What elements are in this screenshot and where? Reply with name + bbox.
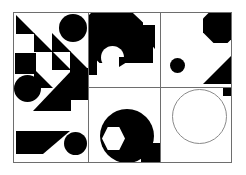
square-shape: [223, 88, 231, 96]
square-shape: [89, 51, 97, 75]
square-shape: [16, 131, 43, 154]
square-shape: [70, 68, 88, 100]
triangle-shape: [16, 15, 35, 34]
circle-shape: [170, 58, 185, 73]
circle-shape: [64, 132, 87, 155]
circle-shape: [14, 75, 41, 102]
panel-bottom-right: [161, 88, 231, 162]
divider-horizontal: [88, 87, 231, 88]
circle-outline-shape: [172, 89, 227, 144]
artwork-stage: [0, 0, 246, 175]
square-shape: [15, 53, 36, 74]
octagon-shape: [203, 13, 231, 43]
triangle-shape: [34, 33, 53, 52]
circle-shape: [59, 14, 87, 42]
panel-top-middle: [89, 13, 160, 87]
panel-top-right: [161, 13, 231, 87]
triangle-shape: [52, 51, 71, 70]
panel-top-left: [14, 13, 88, 162]
panel-bottom-middle: [89, 88, 160, 162]
triangle-shape: [203, 50, 231, 84]
artwork-canvas: [13, 12, 232, 163]
